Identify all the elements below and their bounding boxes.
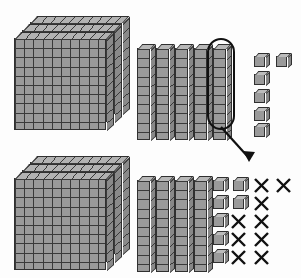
flat xyxy=(14,38,106,130)
unit-cube xyxy=(213,198,224,209)
regroup-highlight-circle xyxy=(207,38,235,130)
unit-cube xyxy=(254,56,265,67)
crossed-out-cube xyxy=(276,178,291,193)
crossed-out-cube xyxy=(231,214,246,229)
unit-cube xyxy=(233,198,244,209)
base-ten-blocks-diagram xyxy=(0,0,301,278)
top-row-flats xyxy=(14,22,130,134)
crossed-out-cube xyxy=(231,250,246,265)
crossed-out-cube xyxy=(254,214,269,229)
unit-cube xyxy=(213,252,224,263)
rod xyxy=(156,180,169,272)
bottom-row-flats xyxy=(14,162,130,274)
unit-cube xyxy=(213,234,224,245)
flat xyxy=(14,178,106,270)
unit-cube xyxy=(233,180,244,191)
unit-cube xyxy=(254,74,265,85)
crossed-out-cube xyxy=(254,250,269,265)
unit-cube xyxy=(254,110,265,121)
rod xyxy=(175,180,188,272)
rod xyxy=(137,180,150,272)
regroup-arrow-icon xyxy=(205,124,265,172)
unit-cube xyxy=(213,216,224,227)
rod xyxy=(156,48,169,140)
crossed-out-cube xyxy=(254,178,269,193)
unit-cube xyxy=(213,180,224,191)
rod xyxy=(137,48,150,140)
rod xyxy=(175,48,188,140)
crossed-out-cube xyxy=(231,232,246,247)
rod xyxy=(194,180,207,272)
crossed-out-cube xyxy=(254,232,269,247)
crossed-out-cube xyxy=(254,196,269,211)
unit-cube xyxy=(254,92,265,103)
unit-cube xyxy=(276,56,287,67)
